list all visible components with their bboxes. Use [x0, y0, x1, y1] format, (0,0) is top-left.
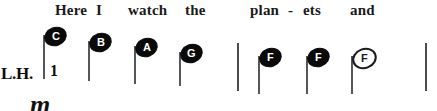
notehead-letter: F	[349, 44, 380, 72]
notehead-letter: C	[41, 24, 69, 50]
note-letter-text: B	[97, 37, 105, 48]
music-notation-sheet: HereIwatchtheplan-etsand L.H. 1 m CBAGFF…	[0, 0, 437, 111]
note-letter-text: F	[267, 52, 274, 63]
note-letter-text: A	[143, 42, 151, 53]
left-hand-label: L.H.	[1, 64, 33, 84]
lyric-word: watch	[128, 0, 167, 20]
note-letter-text: C	[52, 31, 60, 42]
lyric-word: and	[350, 0, 375, 20]
note-f[interactable]: F	[348, 48, 374, 108]
lyric-word: -	[288, 0, 293, 20]
lyric-word: plan	[250, 0, 279, 20]
note-a[interactable]: A	[131, 38, 157, 98]
notehead-letter: A	[132, 35, 160, 61]
note-f[interactable]: F	[255, 48, 281, 108]
notehead-letter: G	[177, 41, 205, 67]
barline	[425, 43, 427, 91]
lyric-word: Here	[55, 0, 87, 20]
notehead-letter: F	[304, 45, 332, 71]
dynamic-marking: m	[30, 92, 50, 111]
lyric-word: the	[185, 0, 206, 20]
note-letter-text: F	[361, 53, 368, 64]
note-c[interactable]: C	[40, 27, 66, 87]
note-f[interactable]: F	[303, 48, 329, 108]
lyric-word: I	[96, 0, 102, 20]
note-g[interactable]: G	[176, 44, 202, 104]
notehead-letter: F	[256, 45, 284, 71]
note-letter-text: F	[315, 52, 322, 63]
lyric-word: ets	[303, 0, 321, 20]
barline	[237, 43, 239, 91]
note-letter-text: G	[187, 48, 196, 59]
notehead-letter: B	[86, 30, 114, 56]
note-b[interactable]: B	[85, 33, 111, 93]
